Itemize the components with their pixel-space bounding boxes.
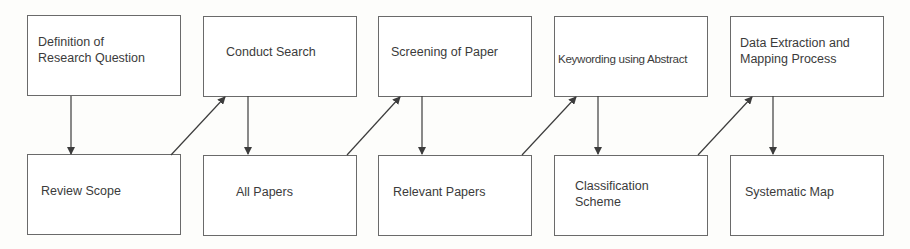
process-step-label: Keywording using Abstract xyxy=(558,51,705,67)
outcome-classification-scheme: Classification Scheme xyxy=(554,155,708,236)
outcome-systematic-map: Systematic Map xyxy=(730,155,884,236)
outcome-label: All Papers xyxy=(236,184,350,200)
process-step-conduct-search: Conduct Search xyxy=(203,16,357,97)
process-step-data-extraction-and-mapping: Data Extraction and Mapping Process xyxy=(730,16,884,97)
outcome-label: Relevant Papers xyxy=(393,184,525,200)
process-step-keywording-using-abstract: Keywording using Abstract xyxy=(554,16,708,97)
process-step-label: Definition of Research Question xyxy=(38,34,174,66)
mapping-process-diagram: Definition of Research Question Conduct … xyxy=(0,0,910,249)
process-step-definition-of-research-question: Definition of Research Question xyxy=(27,15,181,96)
diagonal-arrow-icon xyxy=(171,97,225,155)
outcome-all-papers: All Papers xyxy=(203,155,357,236)
process-step-label: Data Extraction and Mapping Process xyxy=(740,35,877,67)
outcome-label: Review Scope xyxy=(41,183,174,199)
outcome-review-scope: Review Scope xyxy=(27,154,181,235)
outcome-label: Systematic Map xyxy=(745,184,877,200)
diagonal-arrow-icon xyxy=(698,97,752,155)
process-step-label: Conduct Search xyxy=(226,44,350,60)
diagonal-arrow-icon xyxy=(347,97,400,155)
process-step-screening-of-paper: Screening of Paper xyxy=(378,16,532,97)
outcome-label: Classification Scheme xyxy=(575,178,701,210)
diagonal-arrow-icon xyxy=(522,97,576,155)
outcome-relevant-papers: Relevant Papers xyxy=(378,155,532,236)
process-step-label: Screening of Paper xyxy=(391,44,525,60)
